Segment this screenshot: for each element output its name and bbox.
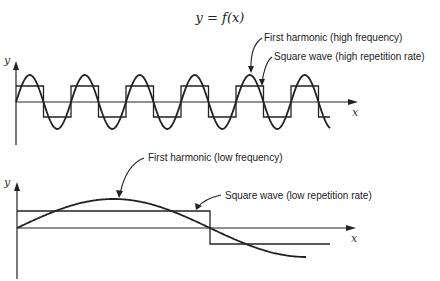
figure-title: y = f(x) <box>195 10 245 25</box>
top-square-arrow-icon <box>259 79 265 86</box>
bottom-x-label: x <box>351 232 358 245</box>
bottom-y-axis-arrow-icon <box>14 182 20 191</box>
top-harmonic-arrow-icon <box>248 66 254 73</box>
top-x-axis-arrow-icon <box>348 99 358 105</box>
bottom-x-axis-arrow-icon <box>346 225 356 231</box>
top-y-axis-arrow-icon <box>13 61 19 70</box>
bottom-y-label: y <box>3 176 11 189</box>
bottom-square-label: Square wave (low repetition rate) <box>225 190 372 201</box>
bottom-plot: y x First harmonic (low frequency) Squar… <box>3 152 372 279</box>
top-square-label: Square wave (high repetition rate) <box>274 51 425 62</box>
top-y-label: y <box>3 54 11 67</box>
diagram-canvas: y = f(x) y x First harmonic (high freque… <box>0 0 440 281</box>
bottom-harmonic-arrow-icon <box>116 190 123 198</box>
bottom-harmonic-label: First harmonic (low frequency) <box>148 152 282 163</box>
top-x-label: x <box>352 106 359 119</box>
top-harmonic-label: First harmonic (high frequency) <box>264 32 402 43</box>
top-plot: y x First harmonic (high frequency) Squa… <box>3 32 425 145</box>
